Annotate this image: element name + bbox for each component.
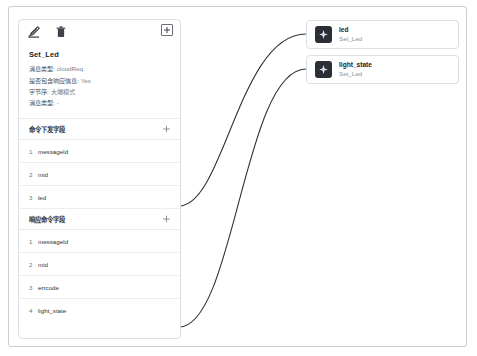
property-key: 是否包含响应信息: [29,77,79,84]
field-name: light_state [38,307,66,314]
property-list: 消息类型:cloudReq 是否包含响应信息:Yes 字节序:大端模式 消息类型… [19,59,180,116]
node-subtitle: Set_Led [339,35,362,43]
list-item-light-state[interactable]: 4 light_state [19,299,180,322]
field-name: mid [38,171,48,178]
add-command-field-button[interactable] [162,125,171,134]
field-index: 4 [29,307,38,314]
property-value: Yes [81,77,91,84]
list-item[interactable]: 1 messageId [19,230,180,253]
property-value: cloudReq [57,65,83,72]
field-index: 2 [29,261,38,268]
property-row: 字节序:大端模式 [29,87,170,98]
panel-toolbar [19,20,180,44]
field-index: 3 [29,284,38,291]
node-subtitle: Set_Led [339,70,372,78]
node-text: led Set_Led [339,26,362,42]
field-index: 1 [29,148,38,155]
trash-icon[interactable] [54,25,68,39]
node-card-led[interactable]: led Set_Led [306,20,459,49]
list-item[interactable]: 1 messageId [19,140,180,163]
field-name: messageId [38,148,68,155]
node-title: led [339,26,362,34]
node-title: light_state [339,61,372,69]
field-name: led [38,194,46,201]
page-title: Set_Led [19,44,180,59]
diamond-node-icon [315,26,332,43]
property-key: 消息类型: [29,99,55,106]
list-item[interactable]: 2 mid [19,163,180,186]
add-response-field-button[interactable] [162,215,171,224]
edit-square-icon[interactable] [27,25,41,39]
list-item-led[interactable]: 3 led [19,186,180,209]
message-properties-panel[interactable]: Set_Led 消息类型:cloudReq 是否包含响应信息:Yes 字节序:大… [18,19,181,339]
property-value: - [57,99,59,106]
field-index: 2 [29,171,38,178]
property-value: 大端模式 [51,88,75,95]
field-index: 3 [29,194,38,201]
section-label: 命令下发字段 [29,125,66,134]
field-name: errcode [38,284,59,291]
property-row: 是否包含响应信息:Yes [29,75,170,86]
field-name: mid [38,261,48,268]
property-key: 消息类型: [29,65,55,72]
field-index: 1 [29,238,38,245]
property-row: 消息类型:- [29,98,170,109]
list-item[interactable]: 2 mid [19,253,180,276]
diamond-node-icon [315,61,332,78]
property-key: 字节序: [29,88,49,95]
node-text: light_state Set_Led [339,61,372,77]
list-item[interactable]: 3 errcode [19,276,180,299]
add-message-button[interactable] [161,24,173,36]
edge-light-state[interactable] [179,69,306,327]
section-header-response-fields: 响应命令字段 [19,209,180,230]
node-card-light-state[interactable]: light_state Set_Led [306,55,459,84]
section-label: 响应命令字段 [29,215,66,224]
section-header-command-fields: 命令下发字段 [19,119,180,140]
edge-led[interactable] [179,34,306,206]
flow-canvas[interactable]: Set_Led 消息类型:cloudReq 是否包含响应信息:Yes 字节序:大… [8,6,467,347]
property-row: 消息类型:cloudReq [29,64,170,75]
field-name: messageId [38,238,68,245]
